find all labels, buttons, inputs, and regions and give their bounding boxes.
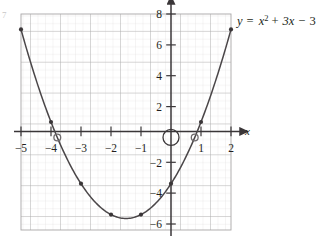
y-tick-label: −2	[150, 157, 162, 169]
figure-corner-tag: 7	[2, 10, 7, 20]
equation-label: y=x2+3x−3	[235, 13, 316, 28]
graph-figure: 7 x	[0, 0, 329, 236]
x-tick-label: 1	[198, 142, 204, 154]
equation-equals: =	[247, 14, 254, 28]
equation-term2: 3x	[282, 14, 295, 28]
svg-text:y=x2+3x−3: y=x2+3x−3	[235, 13, 316, 28]
x-tick-label: −1	[135, 142, 147, 154]
x-tick-label: −2	[105, 142, 117, 154]
x-tick-label: 2	[228, 142, 234, 154]
data-point	[139, 212, 143, 216]
data-point	[109, 212, 113, 216]
equation-plus: +	[271, 14, 278, 28]
y-tick-label: 4	[156, 70, 162, 82]
equation-minus: −	[298, 14, 305, 28]
x-tick-label: −3	[75, 142, 87, 154]
y-tick-label: 8	[156, 8, 162, 20]
data-point	[79, 182, 83, 186]
data-point	[169, 182, 173, 186]
data-point	[49, 120, 53, 124]
x-tick-label: −4	[45, 142, 57, 154]
y-tick-label: 6	[156, 39, 162, 51]
data-point	[19, 27, 23, 31]
x-tick-label: −5	[15, 142, 27, 154]
data-point	[229, 27, 233, 31]
equation-lhs: y	[235, 14, 243, 28]
y-tick-label: −6	[150, 218, 162, 230]
x-axis-label: x	[244, 125, 250, 137]
equation-term3: 3	[309, 14, 315, 28]
data-point	[199, 120, 203, 124]
equation-term1-exponent: 2	[264, 13, 268, 23]
coordinate-plane-svg: 7 x	[0, 0, 329, 236]
y-tick-label: 2	[156, 101, 162, 113]
